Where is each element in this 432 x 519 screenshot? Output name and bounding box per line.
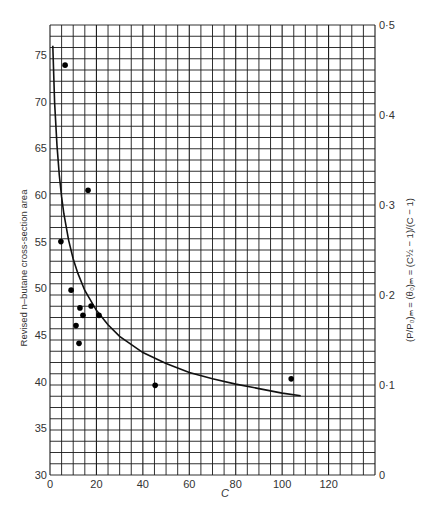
y-right-tick-label: 0·4 [379, 109, 395, 121]
y-tick-label: 40 [35, 376, 47, 388]
y-right-tick-label: 0·5 [379, 19, 395, 31]
y-right-tick-label: 0·1 [379, 379, 395, 391]
data-point [76, 341, 82, 347]
x-axis-ticks: 020406080100120 [47, 478, 338, 490]
data-point [152, 383, 158, 389]
data-point [73, 323, 79, 329]
x-tick-label: 40 [137, 478, 149, 490]
x-tick-label: 60 [183, 478, 195, 490]
y-tick-label: 45 [35, 329, 47, 341]
data-point [288, 376, 294, 382]
x-axis-label: C [221, 487, 229, 499]
x-tick-label: 20 [90, 478, 102, 490]
y-right-tick-label: 0 [379, 469, 385, 481]
y-tick-label: 70 [35, 96, 47, 108]
chart: 020406080100120 30354045505560657075 00·… [0, 0, 432, 519]
y-tick-label: 55 [35, 236, 47, 248]
x-tick-label: 100 [273, 478, 291, 490]
y-tick-label: 65 [35, 142, 47, 154]
x-tick-label: 120 [319, 478, 337, 490]
data-point [62, 62, 68, 68]
y-right-axis-label: (P/P₀)ₘ = (θ₀)ₘ = (C½ − 1)/(C − 1) [404, 198, 415, 342]
y-right-axis-ticks: 00·10·20·30·40·5 [379, 19, 395, 481]
y-tick-label: 30 [35, 469, 47, 481]
data-point [58, 239, 64, 245]
curve-line [53, 46, 301, 396]
y-tick-label: 60 [35, 189, 47, 201]
x-tick-label: 0 [47, 478, 53, 490]
data-point [85, 187, 91, 193]
data-point [96, 313, 102, 319]
y-tick-label: 75 [35, 49, 47, 61]
data-point [80, 313, 86, 319]
data-point [68, 287, 74, 293]
y-right-tick-label: 0·2 [379, 289, 395, 301]
y-axis-ticks: 30354045505560657075 [35, 49, 47, 481]
y-right-tick-label: 0·3 [379, 199, 395, 211]
y-tick-label: 35 [35, 422, 47, 434]
grid [50, 25, 375, 475]
y-axis-label: Revised n–butane cross-section area [18, 189, 29, 347]
y-tick-label: 50 [35, 282, 47, 294]
x-tick-label: 80 [230, 478, 242, 490]
data-point [88, 303, 94, 309]
data-point [77, 305, 83, 311]
